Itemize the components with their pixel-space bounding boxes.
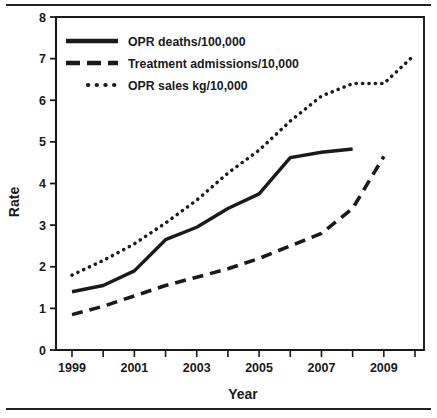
x-tick-label: 2003	[183, 361, 211, 375]
x-axis-title: Year	[228, 386, 258, 402]
y-tick-label: 8	[39, 11, 46, 25]
y-tick-label: 1	[39, 302, 46, 316]
series-line-1	[72, 149, 353, 292]
y-tick-label: 3	[39, 219, 46, 233]
y-tick-label: 6	[39, 94, 46, 108]
x-tick-label: 1999	[58, 361, 86, 375]
y-axis-ticks: 012345678	[39, 11, 56, 358]
y-tick-label: 0	[39, 344, 46, 358]
y-tick-label: 7	[39, 52, 46, 66]
x-tick-label: 2007	[308, 361, 336, 375]
figure-container: 012345678 199920012003200520072009 OPR d…	[0, 0, 437, 418]
x-tick-label: 2001	[120, 361, 148, 375]
legend-label-2: Treatment admissions/10,000	[128, 57, 299, 71]
y-tick-label: 2	[39, 260, 46, 274]
x-tick-label: 2009	[370, 361, 398, 375]
y-tick-label: 5	[39, 135, 46, 149]
data-series-group	[72, 54, 415, 314]
line-chart: 012345678 199920012003200520072009 OPR d…	[0, 0, 437, 418]
y-tick-label: 4	[39, 177, 46, 191]
series-line-2	[72, 156, 384, 314]
legend-label-3: OPR sales kg/10,000	[128, 79, 248, 93]
legend-label-1: OPR deaths/100,000	[128, 35, 246, 49]
chart-legend: OPR deaths/100,000Treatment admissions/1…	[66, 35, 299, 93]
y-axis-title: Rate	[6, 187, 22, 218]
x-axis-ticks: 199920012003200520072009	[58, 350, 415, 375]
x-tick-label: 2005	[245, 361, 273, 375]
